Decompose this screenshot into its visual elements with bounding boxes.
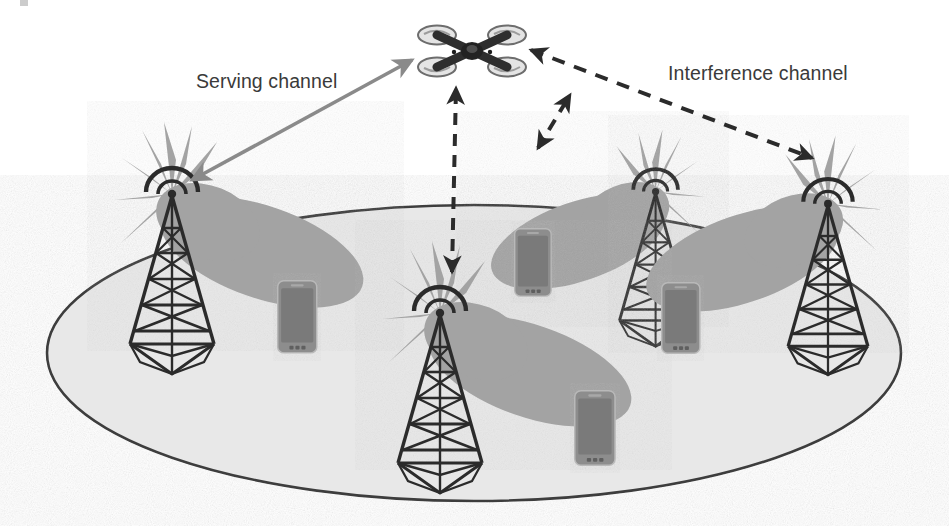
serving-channel-label: Serving channel bbox=[196, 70, 337, 93]
phone-1[interactable] bbox=[278, 281, 317, 353]
phone-3[interactable] bbox=[662, 283, 700, 354]
figure-canvas: Serving channel Interference channel bbox=[0, 0, 949, 526]
scan-artifact bbox=[20, 0, 28, 6]
interference-channel-label: Interference channel bbox=[668, 62, 848, 85]
phone-4[interactable] bbox=[575, 391, 615, 465]
quadcopter-uav-icon bbox=[418, 26, 526, 77]
phone-2[interactable] bbox=[515, 229, 551, 296]
interference-channel-middle-arrow bbox=[538, 95, 570, 148]
